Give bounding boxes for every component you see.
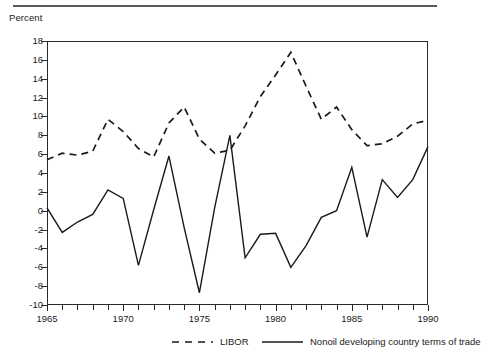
dashed-line-icon [172,337,213,347]
x-axis-tick-label: 1975 [189,313,210,324]
x-axis-tick-marks [47,305,429,312]
x-axis-tick-mark [230,305,231,310]
x-axis-tick-mark [276,305,277,311]
x-axis-tick-labels: 196519701975198019851990 [0,313,448,327]
y-axis-tick-label: 18 [3,36,43,46]
x-axis-tick-mark [321,305,322,310]
x-axis-tick-mark [291,305,292,310]
x-axis-tick-mark [352,305,353,311]
x-axis-tick-mark [47,305,48,311]
y-axis-tick-label: 4 [3,168,43,178]
x-axis-tick-mark [413,305,414,310]
y-axis-tick-label: 12 [3,93,43,103]
y-axis-tick-label: 6 [3,149,43,159]
x-axis-tick-mark [260,305,261,310]
x-axis-tick-label: 1985 [341,313,362,324]
y-axis-tick-label: -10 [3,300,43,310]
chart-legend: LIBOR Nonoil developing country terms of… [0,337,448,355]
solid-line-icon [262,337,303,347]
x-axis-tick-mark [215,305,216,310]
y-axis-tick-label: 14 [3,74,43,84]
x-axis-tick-mark [398,305,399,310]
x-axis-tick-mark [123,305,124,311]
y-axis-tick-label: 0 [3,206,43,216]
x-axis-tick-mark [77,305,78,310]
y-axis-tick-label: -4 [3,243,43,253]
x-axis-tick-mark [306,305,307,310]
x-axis-tick-mark [108,305,109,310]
x-axis-tick-mark [199,305,200,311]
x-axis-tick-mark [154,305,155,310]
y-axis-tick-label: 16 [3,55,43,65]
x-axis-tick-mark [337,305,338,310]
x-axis-tick-label: 1980 [265,313,286,324]
y-axis-tick-label: 2 [3,187,43,197]
x-axis-tick-label: 1990 [417,313,438,324]
x-axis-tick-mark [138,305,139,310]
x-axis-tick-mark [245,305,246,310]
y-axis-tick-label: 8 [3,130,43,140]
chart-plot-area [47,41,428,305]
legend-label-libor: LIBOR [220,337,249,347]
x-axis-tick-mark [169,305,170,310]
x-axis-tick-mark [382,305,383,310]
x-axis-tick-mark [367,305,368,310]
y-axis-tick-label: -6 [3,262,43,272]
x-axis-tick-label: 1970 [113,313,134,324]
x-axis-tick-mark [428,305,429,311]
series-line-nonoil-developing-country-terms-of-trade [47,135,428,292]
x-axis-tick-label: 1965 [36,313,57,324]
series-line-libor [47,52,428,159]
y-axis-tick-label: 10 [3,111,43,121]
x-axis-tick-mark [93,305,94,310]
percent-unit-label: Percent [9,12,42,23]
series-group [47,52,428,292]
y-axis-tick-label: -2 [3,225,43,235]
legend-entry-terms-of-trade: Nonoil developing country terms of trade [262,337,481,347]
y-axis-tick-labels: 181614121086420-2-4-6-8-10 [0,41,43,305]
header-divider [13,5,437,7]
x-axis-tick-mark [62,305,63,310]
y-axis-tick-label: -8 [3,281,43,291]
legend-entry-libor: LIBOR [172,337,249,347]
legend-label-terms-of-trade: Nonoil developing country terms of trade [310,337,481,347]
x-axis-tick-mark [184,305,185,310]
